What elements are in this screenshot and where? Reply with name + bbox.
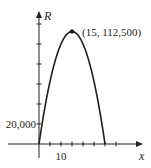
revenue-curve: [39, 32, 105, 145]
x-tick-label-10: 10: [56, 150, 68, 162]
y-axis-label: R: [43, 9, 52, 23]
y-axis-arrow-icon: [36, 11, 42, 18]
x-axis-label: x: [138, 149, 145, 163]
revenue-chart: (15, 112,500) R x 20,000 10: [0, 0, 151, 168]
peak-point: [70, 29, 74, 33]
x-axis-arrow-icon: [136, 141, 143, 147]
y-tick-label-20000: 20,000: [6, 118, 37, 130]
peak-annotation: (15, 112,500): [82, 26, 142, 39]
